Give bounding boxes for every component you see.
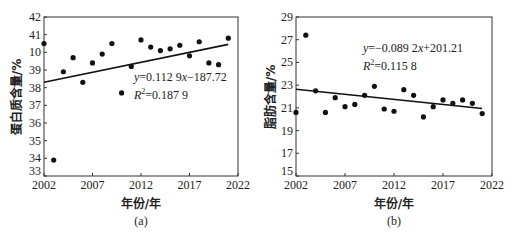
data-point [342,104,347,109]
y-tick-label: 27 [281,33,293,47]
data-point [100,52,105,57]
panel-caption-a: (a) [134,214,147,228]
data-point [313,88,318,93]
y-tick-label: 29 [281,10,293,24]
data-point [138,37,143,42]
y-tick-label: 10 [29,45,41,59]
x-tick-label: 2022 [480,178,504,192]
data-point [382,106,387,111]
x-tick-label: 2017 [178,178,202,192]
data-point [333,95,338,100]
data-point [401,87,406,92]
y-tick-label: 15 [281,164,293,178]
data-point [480,111,485,116]
x-tick-label: 2022 [226,178,250,192]
data-point [168,46,173,51]
y-tick-label: 33 [29,164,41,178]
y-tick-label: 38 [29,81,41,95]
data-point [391,109,396,114]
y-tick-label: 21 [281,101,293,115]
regression-equation-a: y=0.112 9x−187.72 [133,70,227,84]
x-tick-label: 2012 [382,178,406,192]
y-tick-label: 34 [29,151,41,165]
data-point [362,93,367,98]
x-tick-label: 2017 [431,178,455,192]
data-point [41,41,46,46]
data-point [226,36,231,41]
data-point [119,90,124,95]
data-point [450,101,455,106]
y-tick-label: 39 [29,63,41,77]
data-point [323,110,328,115]
data-point [197,39,202,44]
data-point [71,55,76,60]
panel-caption-b: (b) [387,214,401,228]
data-point [303,33,308,38]
x-tick-label: 2007 [333,178,357,192]
y-tick-label: 19 [281,124,293,138]
y-axis-label-a: 蛋白质含量/% [9,59,24,135]
data-point [352,102,357,107]
data-point [90,60,95,65]
x-tick-label: 2012 [129,178,153,192]
data-point [216,62,221,67]
y-tick-label: 41 [29,28,41,42]
data-point [187,53,192,58]
data-point [109,41,114,46]
panel-a: 33343536373839104142 2002200720122017202… [9,10,250,228]
data-point [431,104,436,109]
r-squared-a: R2=0.187 9 [133,87,188,102]
data-point [293,110,298,115]
data-point [51,158,56,163]
data-point [372,84,377,89]
x-axis-label-a: 年份/年 [121,196,161,211]
x-axis-label-b: 年份/年 [374,196,414,211]
x-tick-label: 2002 [32,178,56,192]
data-point [411,93,416,98]
panel-b: 1517192123252729 20022007201220172022 y=… [263,10,504,228]
data-point [158,48,163,53]
y-tick-label: 36 [29,116,41,130]
y-tick-label: 17 [281,146,293,160]
figure: 33343536373839104142 2002200720122017202… [0,0,515,237]
trendline-b [296,89,482,108]
data-point [460,97,465,102]
data-point [177,43,182,48]
data-point [129,64,134,69]
y-axis-label-b: 脂肪含量/% [263,65,278,130]
x-tick-label: 2007 [81,178,105,192]
x-tick-label: 2002 [284,178,308,192]
y-tick-label: 42 [29,10,41,24]
y-tick-label: 25 [281,55,293,69]
data-point [148,44,153,49]
data-point [61,69,66,74]
data-point [470,101,475,106]
y-tick-label: 37 [29,98,41,112]
y-tick-label: 23 [281,78,293,92]
data-point [440,97,445,102]
y-tick-label: 35 [29,134,41,148]
data-point [206,60,211,65]
data-point [80,80,85,85]
data-point [421,114,426,119]
r-squared-b: R2=0.115 8 [362,58,417,73]
regression-equation-b: y=−0.089 2x+201.21 [362,41,463,55]
